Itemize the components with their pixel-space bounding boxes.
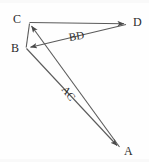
vertex-label-d: D xyxy=(133,16,142,28)
segment-cd xyxy=(30,23,125,24)
diagram-canvas xyxy=(0,0,149,162)
vertex-label-a: A xyxy=(124,145,133,157)
segment-ac xyxy=(32,26,120,147)
segment-label-bd: BD xyxy=(68,30,85,43)
vertex-label-b: B xyxy=(11,42,19,54)
vertex-label-c: C xyxy=(13,13,21,25)
vector-diagram: C B D A BD AC xyxy=(0,0,149,162)
segment-cb xyxy=(26,24,29,48)
